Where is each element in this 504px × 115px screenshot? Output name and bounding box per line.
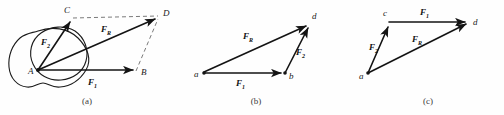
panel-caption-b: (b) bbox=[251, 96, 262, 106]
vector-label-fr-sub: R bbox=[417, 40, 422, 46]
point-label-a: a bbox=[359, 71, 364, 81]
point-label-c: C bbox=[64, 5, 71, 15]
point-label-b: B bbox=[141, 67, 147, 77]
point-label-b: b bbox=[289, 71, 294, 81]
vector-label-fr: F R bbox=[242, 31, 253, 43]
vector-label-f1: F 1 bbox=[87, 77, 97, 89]
point-label-c: c bbox=[383, 8, 387, 18]
vector-label-fr-base: F bbox=[411, 34, 418, 44]
vector-label-f1-base: F bbox=[235, 78, 242, 88]
vector-label-f1-base: F bbox=[419, 7, 426, 17]
vector-label-fr-base: F bbox=[100, 24, 107, 34]
vector-label-fr-base: F bbox=[242, 31, 249, 41]
vector-label-f2: F 2 bbox=[295, 47, 305, 59]
panel-caption-a: (a) bbox=[82, 96, 92, 106]
construction-line-c-d bbox=[73, 16, 158, 18]
point-a-dot bbox=[366, 71, 370, 75]
vector-fr-arrow bbox=[368, 24, 466, 73]
vector-label-f2-base: F bbox=[368, 42, 375, 52]
vector-label-f1-sub: 1 bbox=[426, 13, 429, 19]
point-label-d: d bbox=[312, 11, 317, 21]
point-a-dot bbox=[202, 71, 206, 75]
vector-label-f2-base: F bbox=[295, 47, 302, 57]
construction-circle bbox=[31, 27, 87, 80]
vector-label-f2-sub: 2 bbox=[374, 48, 378, 54]
vector-label-f1-sub: 1 bbox=[94, 83, 97, 89]
panel-c: a c d F 2 F 1 F R (c) bbox=[359, 7, 478, 106]
panel-caption-c: (c) bbox=[423, 96, 433, 106]
vector-label-fr-sub: R bbox=[248, 37, 253, 43]
vector-label-f2-sub: 2 bbox=[301, 53, 305, 59]
vector-label-fr: F R bbox=[100, 24, 111, 36]
point-a-dot bbox=[36, 68, 40, 72]
vector-fr-arrow bbox=[204, 26, 306, 72]
point-label-d: D bbox=[162, 8, 170, 18]
construction-line-b-d bbox=[136, 19, 158, 71]
vector-label-f2: F 2 bbox=[368, 42, 378, 54]
vector-addition-figure: A B C D F 1 F 2 F R (a) bbox=[0, 0, 504, 115]
vector-label-f2: F 2 bbox=[40, 37, 50, 49]
vector-label-f1: F 1 bbox=[419, 7, 429, 19]
point-label-a: a bbox=[194, 69, 199, 79]
vector-label-f1: F 1 bbox=[235, 78, 245, 90]
point-label-d: d bbox=[473, 17, 478, 27]
vector-label-f1-base: F bbox=[87, 77, 94, 87]
point-label-a: A bbox=[27, 66, 34, 76]
vector-label-f2-sub: 2 bbox=[46, 43, 50, 49]
vector-label-fr: F R bbox=[411, 34, 422, 46]
panel-b: a b d F 1 F 2 F R (b) bbox=[194, 11, 317, 106]
figure-container: A B C D F 1 F 2 F R (a) bbox=[0, 0, 504, 115]
point-b-dot bbox=[283, 71, 287, 75]
vector-label-f1-sub: 1 bbox=[242, 84, 245, 90]
vector-label-f2-base: F bbox=[40, 37, 47, 47]
panel-a: A B C D F 1 F 2 F R (a) bbox=[9, 5, 170, 106]
vector-label-fr-sub: R bbox=[106, 30, 111, 36]
